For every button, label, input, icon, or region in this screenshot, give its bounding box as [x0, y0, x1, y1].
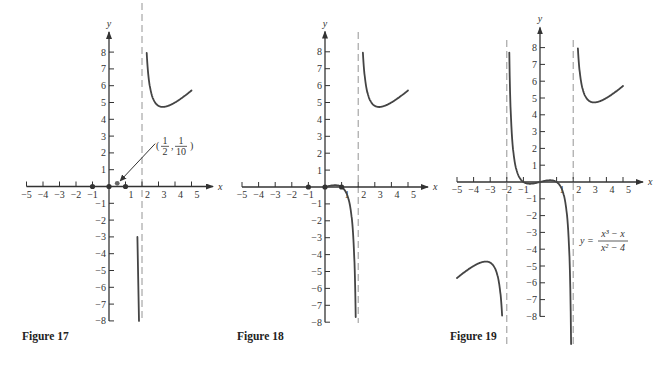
comma: ,: [171, 140, 174, 151]
y-tick-label: 4: [317, 114, 322, 125]
x-tick-label: −2: [286, 189, 297, 200]
y-tick-label: −4: [95, 248, 106, 259]
curve-left-branch: [457, 262, 502, 316]
y-tick-label: 2: [532, 143, 537, 154]
curve-right-branch: [147, 53, 192, 107]
curve-stub-near-asymptote: [137, 237, 139, 321]
x-tick-label: 3: [593, 184, 598, 195]
figure-caption: Figure 19: [450, 330, 497, 343]
y-axis-label: y: [322, 18, 328, 29]
y-tick-label: 8: [532, 42, 537, 53]
figure-19: −5−4−3−2−112345x−8−7−6−5−4−3−2−112345678…: [450, 13, 653, 348]
y-tick-label: −5: [95, 265, 106, 276]
figure-caption: Figure 18: [237, 330, 284, 343]
x-tick-label: −3: [54, 189, 65, 200]
paren-close: ): [190, 140, 193, 152]
y-tick-label: 8: [101, 47, 106, 58]
x-axis-label: x: [217, 181, 223, 192]
fraction-denominator: 10: [176, 146, 186, 157]
y-tick-label: 1: [101, 164, 106, 175]
y-tick-label: −4: [526, 244, 537, 255]
y-tick-label: 8: [317, 46, 322, 57]
x-tick-label: 5: [411, 189, 416, 200]
figure-caption: Figure 17: [22, 330, 69, 343]
y-tick-label: 7: [532, 59, 537, 70]
y-tick-label: −3: [311, 232, 322, 243]
x-tick-label: 4: [609, 184, 614, 195]
x-tick-label: −5: [21, 189, 32, 200]
point-annotation: (12,110): [156, 135, 193, 158]
y-tick-label: −1: [526, 193, 537, 204]
y-tick-label: −4: [311, 249, 322, 260]
y-tick-label: 3: [532, 126, 537, 137]
x-tick-label: 2: [361, 189, 366, 200]
curve-middle-branch: [325, 185, 356, 317]
x-tick-label: 2: [576, 184, 581, 195]
x-tick-label: 5: [626, 184, 631, 195]
x-tick-label: 1: [129, 189, 134, 200]
y-tick-label: 5: [532, 93, 537, 104]
y-tick-label: −6: [311, 283, 322, 294]
y-tick-label: −3: [95, 231, 106, 242]
y-tick-label: 7: [101, 63, 106, 74]
y-tick-label: −1: [95, 198, 106, 209]
fraction-numerator: 1: [163, 135, 168, 146]
y-tick-label: −6: [95, 282, 106, 293]
figures-canvas: −5−4−3−2−112345x−8−7−6−5−4−3−2−112345678…: [0, 0, 670, 368]
y-tick-label: −8: [311, 317, 322, 328]
fraction-denominator: 2: [163, 146, 168, 157]
curve-right-branch: [578, 49, 623, 103]
x-tick-label: −4: [468, 184, 479, 195]
fraction-numerator: 1: [179, 135, 184, 146]
x-tick-label: −2: [71, 189, 82, 200]
x-axis-label: x: [432, 181, 438, 192]
intercept-point: [106, 184, 111, 189]
y-tick-label: −2: [311, 215, 322, 226]
x-axis-label: x: [647, 176, 653, 187]
x-tick-label: 4: [178, 189, 183, 200]
y-tick-label: −7: [95, 299, 106, 310]
intercept-point: [306, 184, 311, 189]
x-tick-label: 5: [195, 189, 200, 200]
x-tick-label: −5: [452, 184, 463, 195]
intercept-point: [339, 184, 344, 189]
intercept-point: [322, 184, 327, 189]
x-tick-label: −4: [253, 189, 264, 200]
y-tick-label: 5: [101, 97, 106, 108]
y-tick-label: −2: [95, 215, 106, 226]
y-tick-label: −7: [526, 294, 537, 305]
x-tick-label: −3: [270, 189, 281, 200]
x-tick-label: −5: [237, 189, 248, 200]
x-tick-label: −3: [485, 184, 496, 195]
y-tick-label: −8: [95, 315, 106, 326]
curve-right-branch: [363, 53, 408, 107]
highlight-point: [115, 181, 120, 186]
figure-18: −5−4−3−2−112345x−8−7−6−5−4−3−2−112345678…: [237, 18, 438, 343]
y-tick-label: 5: [317, 97, 322, 108]
y-axis-label: y: [106, 18, 112, 29]
paren-open: (: [156, 140, 160, 152]
y-tick-label: −2: [526, 210, 537, 221]
y-tick-label: 2: [101, 147, 106, 158]
y-tick-label: 6: [101, 80, 106, 91]
equation-numerator: x³ − x: [600, 228, 625, 239]
y-tick-label: 3: [317, 131, 322, 142]
x-tick-label: 2: [145, 189, 150, 200]
y-tick-label: −6: [526, 277, 537, 288]
figure-17: −5−4−3−2−112345x−8−7−6−5−4−3−2−112345678…: [21, 3, 223, 343]
intercept-point: [90, 184, 95, 189]
y-tick-label: −1: [311, 198, 322, 209]
x-tick-label: 4: [394, 189, 399, 200]
y-tick-label: −7: [311, 300, 322, 311]
y-tick-label: 6: [317, 80, 322, 91]
y-tick-label: 2: [317, 148, 322, 159]
y-axis-label: y: [537, 13, 543, 24]
y-tick-label: −8: [526, 311, 537, 322]
y-tick-label: 1: [532, 160, 537, 171]
equation-lhs: y =: [579, 235, 594, 246]
y-tick-label: 1: [317, 165, 322, 176]
annotation-arrow: [120, 144, 155, 181]
y-tick-label: −5: [526, 261, 537, 272]
y-tick-label: −5: [311, 266, 322, 277]
x-tick-label: −4: [38, 189, 49, 200]
